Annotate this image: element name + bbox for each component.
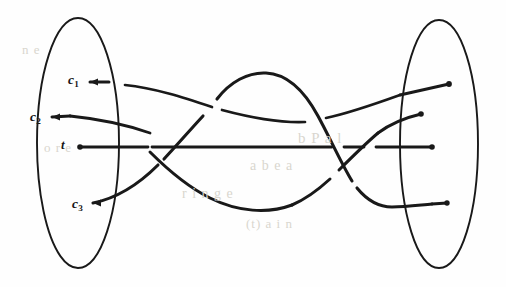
strand-c3 [93,73,450,207]
bleed-text-line: b P a l [298,130,342,147]
right-ellipse [400,20,478,268]
strand-c1 [90,79,452,123]
bleed-text-line: (t) a i n [246,216,293,232]
label-c2: c2 [30,110,41,126]
strand-horizontal-t [77,144,435,150]
bleed-text-line: n e [22,42,41,58]
strand-c2 [52,111,424,210]
bleed-text-line: a b e a [250,158,293,174]
bleed-text-line: r i n g e [182,186,234,202]
bleed-text-line: o r e [44,140,72,156]
label-c3: c3 [72,197,83,213]
diagram-canvas [0,0,506,287]
tangle-diagram-figure: c1 c2 t c3 b P a l a b e a r i n g e (t)… [0,0,506,287]
label-c1: c1 [68,73,79,89]
